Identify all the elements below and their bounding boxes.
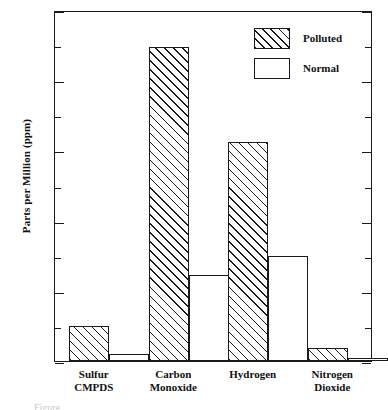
y-axis-tick-major-right <box>362 293 371 294</box>
legend-swatch-polluted-icon <box>254 28 290 49</box>
legend-swatch-normal-icon <box>254 58 290 79</box>
y-axis-tick-minor-left <box>55 188 61 189</box>
bar-normal-0 <box>109 354 149 361</box>
y-axis-tick-minor-left <box>55 258 61 259</box>
y-axis-tick-major-right <box>362 12 371 13</box>
bar-polluted-1 <box>149 47 189 361</box>
y-axis-tick-minor-right <box>365 188 371 189</box>
x-axis-category-label: CarbonMonoxide <box>134 368 214 394</box>
legend-item-polluted: Polluted <box>254 25 374 51</box>
bar-polluted-0 <box>69 326 109 361</box>
y-axis-tick-minor-right <box>365 258 371 259</box>
x-axis-category-label-line: Monoxide <box>134 381 214 394</box>
y-axis-tick-major-left <box>55 363 64 364</box>
bar-normal-1 <box>189 275 229 361</box>
y-axis-tick-major-left <box>55 293 64 294</box>
bar-polluted-2 <box>228 142 268 361</box>
y-axis-tick-major-left <box>55 152 64 153</box>
x-axis-category-label-line: Dioxide <box>293 381 373 394</box>
x-axis-category-label-line: CMPDS <box>54 381 134 394</box>
legend-label-polluted: Polluted <box>303 32 342 44</box>
bar-normal-2 <box>268 256 308 361</box>
y-axis-tick-major-right <box>362 152 371 153</box>
legend-label-normal: Normal <box>303 62 339 74</box>
caption-fragment: Figure <box>34 402 60 410</box>
x-axis-category-label: SulfurCMPDS <box>54 368 134 394</box>
y-axis-tick-minor-right <box>365 328 371 329</box>
x-axis-category-label-line: Hydrogen <box>213 368 293 381</box>
y-axis-tick-minor-left <box>55 47 61 48</box>
x-axis-category-label-line: Nitrogen <box>293 368 373 381</box>
y-axis-tick-major-left <box>55 12 64 13</box>
x-axis-category-label: Hydrogen <box>213 368 293 381</box>
bar-polluted-3 <box>308 348 348 361</box>
y-axis-tick-major-right <box>362 363 371 364</box>
chart-legend: Polluted Normal <box>254 25 374 85</box>
y-axis-title: Parts per Million (ppm) <box>20 86 32 266</box>
y-axis-tick-minor-left <box>55 328 61 329</box>
x-axis-category-label: NitrogenDioxide <box>293 368 373 394</box>
y-axis-tick-minor-right <box>365 117 371 118</box>
x-axis-category-label-line: Carbon <box>134 368 214 381</box>
y-axis-tick-major-right <box>362 223 371 224</box>
bar-normal-3 <box>348 358 388 361</box>
y-axis-tick-major-left <box>55 82 64 83</box>
y-axis-tick-minor-left <box>55 117 61 118</box>
x-axis-category-label-line: Sulfur <box>54 368 134 381</box>
legend-item-normal: Normal <box>254 55 374 81</box>
y-axis-tick-major-left <box>55 223 64 224</box>
